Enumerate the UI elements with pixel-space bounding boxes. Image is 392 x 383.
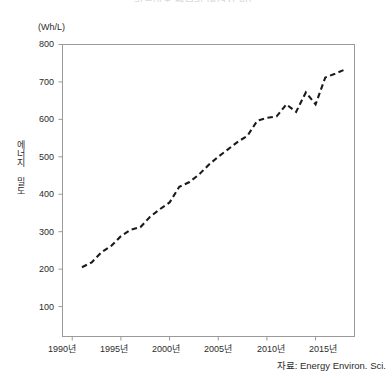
y-tick-label: 500	[20, 152, 54, 162]
source-note: 자료: Energy Environ. Sci.	[277, 358, 386, 372]
y-tick-label: 200	[20, 264, 54, 274]
chart-figure: 리튬이온 배터리 에너지 밀도 (Wh/L) 에너지 밀도 8007006005…	[0, 0, 392, 383]
x-tick-label: 2015년	[301, 342, 345, 355]
y-tick-label: 400	[20, 189, 54, 199]
x-tick-label: 1995년	[92, 342, 136, 355]
axis-tick-marks	[59, 45, 316, 341]
y-tick-label: 300	[20, 227, 54, 237]
y-tick-label: 800	[20, 39, 54, 49]
x-tick-label: 1990년	[40, 342, 84, 355]
x-tick-label: 2010년	[249, 342, 293, 355]
x-tick-label: 2000년	[144, 342, 188, 355]
plot-frame	[63, 45, 355, 337]
x-tick-label: 2005년	[196, 342, 240, 355]
y-tick-label: 700	[20, 77, 54, 87]
y-tick-label: 600	[20, 114, 54, 124]
plot-area	[0, 0, 392, 383]
y-tick-label: 100	[20, 302, 54, 312]
data-line-energy-density	[82, 70, 345, 268]
